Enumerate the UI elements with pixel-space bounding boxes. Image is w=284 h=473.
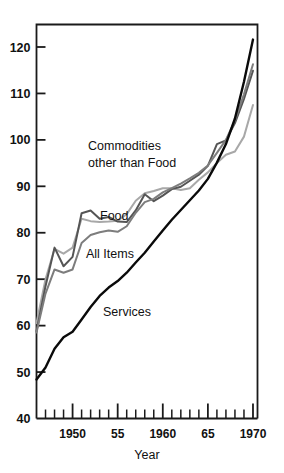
all-items-label: All Items [86, 247, 134, 261]
y-tick-label-90: 90 [17, 180, 31, 194]
chart-canvas: 4050607080901001101201950551960651970Yea… [0, 0, 284, 473]
y-axis: 405060708090100110120 [10, 41, 46, 427]
commodities-label-line2: other than Food [88, 156, 176, 170]
x-axis-title: Year [134, 448, 159, 462]
y-tick-label-120: 120 [10, 41, 31, 55]
y-tick-label-80: 80 [17, 226, 31, 240]
y-tick-label-60: 60 [17, 319, 31, 333]
y-tick-label-110: 110 [10, 87, 30, 101]
x-axis: 1950551960651970Year [46, 404, 267, 462]
food-label: Food [100, 209, 129, 223]
series-line-services [37, 40, 253, 380]
x-tick-label-1970: 1970 [240, 427, 267, 441]
y-tick-label-70: 70 [17, 273, 31, 287]
series-line-commodities-other-than-food [37, 105, 253, 323]
y-tick-label-40: 40 [17, 412, 31, 426]
plot-frame [37, 25, 258, 419]
cpi-index-line-chart: 4050607080901001101201950551960651970Yea… [0, 0, 284, 473]
commodities-label-line1: Commodities [88, 139, 161, 153]
x-tick-label-1965: 65 [201, 427, 215, 441]
axis-frame [37, 25, 258, 419]
x-tick-label-1950: 1950 [59, 427, 86, 441]
series-line-all-items [37, 64, 253, 332]
x-tick-label-1955: 55 [111, 427, 125, 441]
y-tick-label-100: 100 [10, 133, 31, 147]
y-tick-label-50: 50 [17, 366, 31, 380]
services-label: Services [103, 305, 151, 319]
series-line-food [37, 71, 253, 332]
series-group [37, 40, 253, 380]
x-tick-label-1960: 1960 [149, 427, 176, 441]
